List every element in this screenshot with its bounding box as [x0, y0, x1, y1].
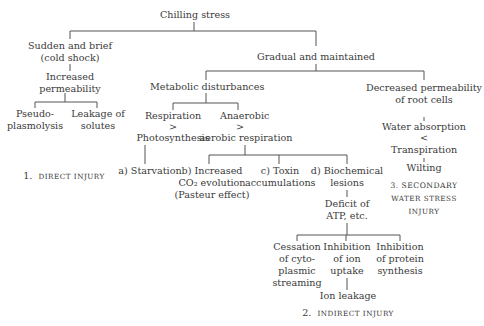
toxin-line2: accumulations: [245, 177, 315, 189]
node-leakage-solutes: Leakage of solutes: [70, 108, 126, 132]
indirect-injury-num: 2.: [302, 307, 311, 318]
atp-line2: ATP, etc.: [317, 210, 377, 222]
atp-line1: Deficit of: [317, 198, 377, 210]
node-metabolic-disturbances: Metabolic disturbances: [150, 81, 262, 93]
less-than-symbol: <: [374, 132, 474, 144]
cess-line1: Cessation: [270, 241, 324, 253]
prot-line2: of protein: [370, 253, 430, 265]
ionup-line2: of ion: [320, 253, 374, 265]
cess-line3: plasmic: [270, 265, 324, 277]
anaer-line3: aerobic respiration: [198, 132, 294, 143]
direct-injury-num: 1.: [23, 170, 32, 181]
node-cessation-streaming: Cessation of cyto- plasmic streaming: [270, 241, 324, 289]
node-incperm-line1: Increased: [20, 71, 120, 83]
cess-line4: streaming: [270, 277, 324, 289]
secondary-line2: WATER STRESS: [374, 192, 474, 205]
node-pseudo-line2: plasmolysis: [5, 120, 65, 132]
ionup-line3: uptake: [320, 265, 374, 277]
co2-line2: CO₂ evolution: [174, 177, 250, 189]
node-sudden-brief: Sudden and brief (cold shock): [20, 40, 120, 64]
node-wilting: Wilting: [374, 162, 474, 174]
node-increased-co2: b) Increased CO₂ evolution (Pasteur effe…: [174, 165, 250, 201]
node-gradual-maintained: Gradual and maintained: [256, 51, 376, 63]
node-pseudo-line1: Pseudo-: [5, 108, 65, 120]
node-incperm-line2: permeability: [20, 83, 120, 95]
secondary-line1: 3. SECONDARY: [374, 179, 474, 192]
node-decreased-permeability: Decreased permeability of root cells: [364, 82, 484, 106]
node-deficit-atp: Deficit of ATP, etc.: [317, 198, 377, 222]
toxin-line1: c) Toxin: [245, 165, 315, 177]
secondary-line3: INJURY: [374, 205, 474, 218]
node-chilling-stress: Chilling stress: [150, 9, 240, 21]
ionup-line1: Inhibition: [320, 241, 374, 253]
node-sudden-line2: (cold shock): [20, 52, 120, 64]
indirect-injury-label: INDIRECT INJURY: [317, 309, 393, 318]
prot-line1: Inhibition: [370, 241, 430, 253]
anaer-gt: >: [198, 121, 294, 132]
direct-injury-label: DIRECT INJURY: [38, 172, 104, 181]
node-leakage-line2: solutes: [70, 120, 126, 132]
node-anaerobic-gt-aerobic: Anaerobic > aerobic respiration: [198, 110, 294, 143]
co2-line1: b) Increased: [174, 165, 250, 177]
cess-line2: of cyto-: [270, 253, 324, 265]
node-ion-leakage: Ion leakage: [313, 290, 383, 302]
node-increased-permeability: Increased permeability: [20, 71, 120, 95]
node-pseudoplasmolysis: Pseudo- plasmolysis: [5, 108, 65, 132]
node-leakage-line1: Leakage of: [70, 108, 126, 120]
node-transpiration: Transpiration: [374, 144, 474, 156]
decperm-line2: of root cells: [364, 94, 484, 106]
anaer-line1: Anaerobic: [198, 110, 294, 121]
label-indirect-injury: 2. INDIRECT INJURY: [298, 307, 398, 320]
node-inhibition-protein: Inhibition of protein synthesis: [370, 241, 430, 277]
node-inhibition-ion-uptake: Inhibition of ion uptake: [320, 241, 374, 277]
co2-line3: (Pasteur effect): [174, 189, 250, 201]
node-toxin-accumulations: c) Toxin accumulations: [245, 165, 315, 189]
decperm-line1: Decreased permeability: [364, 82, 484, 94]
label-secondary-injury: 3. SECONDARY WATER STRESS INJURY: [374, 179, 474, 218]
node-sudden-line1: Sudden and brief: [20, 40, 120, 52]
label-direct-injury: 1. DIRECT INJURY: [14, 170, 114, 183]
prot-line3: synthesis: [370, 265, 430, 277]
